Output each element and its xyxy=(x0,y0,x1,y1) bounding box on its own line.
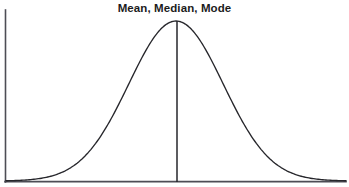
normal-distribution-curve xyxy=(6,21,346,181)
bell-curve-figure: Mean, Median, Mode xyxy=(0,0,349,187)
plot-area xyxy=(0,0,349,187)
